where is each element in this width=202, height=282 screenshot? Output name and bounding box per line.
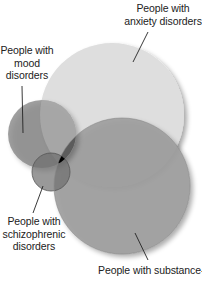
substance-label-line-1: People with substance-: [98, 264, 202, 277]
schizophrenic-leader-line: [33, 186, 43, 213]
mood-label-line-2: mood: [0, 57, 54, 70]
mood-label-line-1: People with: [0, 44, 54, 57]
schizophrenic-label-line-1: People with: [2, 215, 66, 228]
substance-label: People with substance-: [98, 264, 202, 277]
schizophrenic-label: People with schizophrenic disorders: [2, 215, 66, 253]
schizophrenic-label-line-2: schizophrenic: [2, 228, 66, 241]
anxiety-label-line-1: People with: [118, 2, 202, 15]
schizophrenic-label-line-3: disorders: [2, 240, 66, 253]
mood-label-line-3: disorders: [0, 69, 54, 82]
anxiety-label: People with anxiety disorders: [118, 2, 202, 27]
anxiety-label-line-2: anxiety disorders: [118, 15, 202, 28]
mood-label: People with mood disorders: [0, 44, 54, 82]
